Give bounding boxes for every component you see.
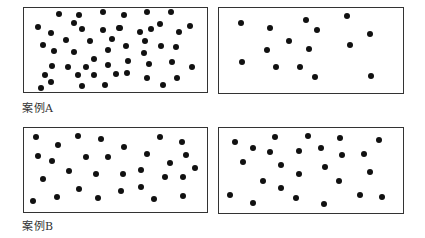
dot — [38, 85, 44, 91]
dot — [264, 47, 270, 53]
dot — [35, 153, 41, 159]
dot — [54, 194, 60, 200]
dot — [183, 152, 189, 158]
dot — [121, 144, 127, 150]
dot — [272, 134, 278, 140]
dot — [118, 188, 124, 194]
dot — [151, 196, 157, 202]
dot — [79, 26, 85, 32]
dot — [344, 13, 350, 19]
dot — [124, 70, 130, 76]
dot — [337, 135, 343, 141]
dot — [83, 64, 89, 70]
dot — [157, 134, 163, 140]
dot — [95, 195, 101, 201]
dot — [56, 11, 62, 17]
dot — [187, 23, 193, 29]
dot — [76, 186, 82, 192]
dot — [138, 167, 144, 173]
dot — [174, 75, 180, 81]
dot — [91, 72, 97, 78]
dot — [321, 201, 327, 207]
dot — [66, 168, 72, 174]
dot — [137, 29, 143, 35]
dot — [144, 75, 150, 81]
dot — [109, 36, 115, 42]
dot — [238, 20, 244, 26]
dot — [100, 9, 106, 15]
dot — [336, 178, 342, 184]
dot — [367, 169, 373, 175]
dot — [93, 171, 99, 177]
dot — [192, 165, 198, 171]
dot — [240, 159, 246, 165]
dot — [33, 134, 39, 140]
dot — [40, 42, 46, 48]
dot — [303, 17, 309, 23]
dot — [322, 164, 328, 170]
dot — [306, 46, 312, 52]
dot — [227, 192, 233, 198]
dot — [76, 12, 82, 18]
dot — [157, 21, 163, 27]
dot — [83, 154, 89, 160]
dot — [125, 58, 131, 64]
dot — [98, 136, 104, 142]
dot — [146, 61, 152, 67]
dot — [42, 72, 48, 78]
dot — [239, 59, 245, 65]
dot — [167, 160, 173, 166]
dot — [286, 38, 292, 44]
dot — [180, 174, 186, 180]
dot — [30, 198, 36, 204]
dot — [379, 194, 385, 200]
dot — [367, 31, 373, 37]
dot — [55, 142, 61, 148]
dot — [100, 27, 106, 33]
dot — [65, 64, 71, 70]
dot — [278, 162, 284, 168]
dot — [296, 171, 302, 177]
dot — [105, 47, 111, 53]
dot — [250, 145, 256, 151]
dot — [49, 158, 55, 164]
dot — [75, 133, 81, 139]
caption-case-b: 案例B — [22, 217, 54, 233]
dot — [273, 64, 279, 70]
dot — [296, 148, 302, 154]
dot — [35, 24, 41, 30]
dot — [169, 59, 175, 65]
dot — [138, 184, 144, 190]
dot — [339, 152, 345, 158]
dot — [142, 38, 148, 44]
dot — [144, 9, 150, 15]
dot — [314, 27, 320, 33]
dot — [297, 64, 303, 70]
dot — [305, 133, 311, 139]
dot — [71, 20, 77, 26]
dot — [250, 200, 256, 206]
dot — [48, 30, 54, 36]
dot — [40, 176, 46, 182]
dot — [105, 62, 111, 68]
dot — [180, 193, 186, 199]
dot — [278, 185, 284, 191]
dot — [347, 42, 353, 48]
dot — [168, 9, 174, 15]
dot — [162, 174, 168, 180]
dot — [120, 171, 126, 177]
dot — [232, 139, 238, 145]
dot — [87, 38, 93, 44]
dot — [141, 50, 147, 56]
dot — [63, 37, 69, 43]
dot — [121, 12, 127, 18]
dot — [368, 73, 374, 79]
dot — [117, 25, 123, 31]
dot — [160, 82, 166, 88]
dot — [318, 145, 324, 151]
dot — [71, 49, 77, 55]
dot — [144, 151, 150, 157]
dot — [260, 178, 266, 184]
dot — [361, 151, 367, 157]
dot — [48, 79, 54, 85]
